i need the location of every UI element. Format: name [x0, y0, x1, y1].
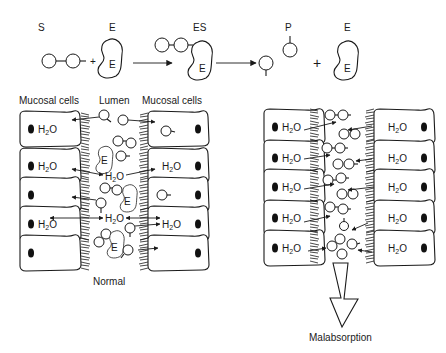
enzyme-substrate-complex-icon: E — [155, 38, 212, 80]
substrate-icon — [42, 54, 86, 68]
malabsorption-arrow — [330, 263, 358, 327]
header-lumen: Lumen — [99, 95, 130, 106]
normal-caption: Normal — [93, 276, 125, 287]
svg-text:E: E — [111, 242, 118, 253]
right-cell-column: H2O H2O — [139, 111, 209, 271]
plus-sign-2: + — [313, 55, 321, 71]
header-left-mucosal-cells: Mucosal cells — [19, 95, 79, 106]
enzyme-label-released: E — [344, 22, 351, 33]
lumen-water-label: H2O — [105, 171, 124, 183]
malabsorption-caption: Malabsorption — [309, 332, 372, 343]
svg-text:E: E — [109, 59, 116, 70]
right-cell-column: H2O H2O H2O H2O H2O — [365, 109, 435, 266]
complex-label: ES — [193, 22, 207, 33]
plus-sign: + — [90, 56, 96, 67]
left-cell-column: H2O H2O H2O — [20, 111, 90, 271]
svg-text:E: E — [344, 63, 351, 74]
header-right-mucosal-cells: Mucosal cells — [142, 95, 202, 106]
lumen-water-label-2: H2O — [105, 213, 124, 225]
svg-text:E: E — [124, 196, 131, 207]
malabsorption-panel: H2O H2O H2O H2O H2O H2O H2O H2O H2O H2O — [264, 109, 435, 343]
product-icon-2 — [283, 36, 297, 57]
enzyme-icon: E — [98, 39, 122, 78]
svg-text:E: E — [199, 63, 206, 74]
enzyme-label: E — [109, 22, 116, 33]
digestion-diagram: S + E E ES E P — [0, 0, 446, 353]
reaction-equation: S + E E ES E P — [38, 22, 358, 80]
normal-panel: Mucosal cells Lumen Mucosal cells H2O H2… — [19, 95, 209, 287]
product-label: P — [285, 22, 292, 33]
product-icon-1 — [259, 56, 273, 76]
svg-text:E: E — [101, 155, 108, 166]
enzyme-icon-released: E — [334, 41, 358, 80]
substrate-label: S — [38, 22, 45, 33]
